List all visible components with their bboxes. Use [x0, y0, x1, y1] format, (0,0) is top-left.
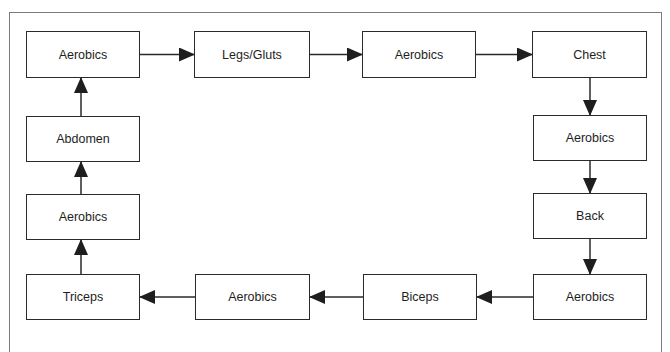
node-triceps: Triceps: [26, 274, 140, 320]
node-legs-gluts: Legs/Gluts: [194, 31, 310, 78]
node-abdomen: Abdomen: [26, 116, 140, 162]
node-label: Aerobics: [59, 48, 108, 62]
node-label: Aerobics: [59, 210, 108, 224]
node-label: Back: [576, 209, 604, 223]
node-back: Back: [533, 193, 647, 239]
node-aerobics-5: Aerobics: [195, 274, 310, 320]
node-aerobics-3: Aerobics: [533, 115, 647, 161]
node-chest: Chest: [532, 31, 647, 78]
node-label: Abdomen: [56, 132, 110, 146]
node-aerobics-6: Aerobics: [26, 194, 140, 240]
node-label: Chest: [573, 48, 606, 62]
node-label: Aerobics: [228, 290, 277, 304]
node-aerobics-2: Aerobics: [362, 31, 476, 78]
node-label: Biceps: [401, 290, 439, 304]
node-label: Aerobics: [566, 131, 615, 145]
node-label: Triceps: [63, 290, 104, 304]
node-aerobics-4: Aerobics: [533, 274, 647, 320]
node-biceps: Biceps: [363, 274, 477, 320]
node-label: Legs/Gluts: [222, 48, 282, 62]
node-label: Aerobics: [395, 48, 444, 62]
node-label: Aerobics: [566, 290, 615, 304]
node-aerobics-1: Aerobics: [26, 31, 140, 78]
